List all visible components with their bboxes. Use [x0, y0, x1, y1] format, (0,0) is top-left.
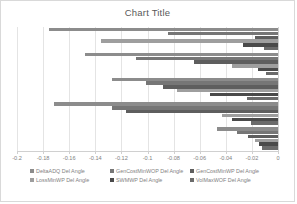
bar [266, 72, 278, 75]
x-axis-tick-label: -0.1 [143, 155, 153, 161]
legend-label: GenCostMinWOP Del Angle [116, 168, 183, 174]
x-axis-tick-mark [278, 151, 279, 154]
legend-item[interactable]: VolMaxWOF Del Angle [190, 177, 270, 183]
legend-label: VolMaxWOF Del Angle [196, 177, 251, 183]
x-axis-tick-mark [43, 151, 44, 154]
gridline [95, 27, 96, 151]
x-axis-tick-label: -0.12 [115, 155, 128, 161]
legend-item[interactable]: GenCostMinWP Del Angle [190, 168, 270, 174]
bar [262, 146, 278, 149]
x-axis-tick-label: -0.02 [246, 155, 259, 161]
legend-swatch-icon [110, 169, 114, 173]
bar [251, 121, 278, 124]
x-axis-tick-label: -0.06 [193, 155, 206, 161]
chart-legend: DeltaADQ Del AngleGenCostMinWOP Del Angl… [1, 168, 294, 183]
x-axis-tick-label: -0.08 [167, 155, 180, 161]
legend-label: SWMWP Del Angle [116, 177, 162, 183]
x-axis-tick-mark [252, 151, 253, 154]
plot-area [17, 27, 278, 151]
gridline [17, 27, 18, 151]
gridline [43, 27, 44, 151]
gridline [148, 27, 149, 151]
chart-container: Chart Title DeltaADQ Del AngleGenCostMin… [0, 0, 295, 202]
legend-label: LossMinWP Del Angle [36, 177, 89, 183]
legend-row: DeltaADQ Del AngleGenCostMinWOP Del Angl… [1, 168, 294, 174]
bar [264, 47, 278, 50]
x-axis-tick-mark [200, 151, 201, 154]
axis-zero-line [278, 27, 279, 151]
x-axis-tick-label: -0.14 [89, 155, 102, 161]
x-axis-tick-mark [121, 151, 122, 154]
legend-item[interactable]: LossMinWP Del Angle [30, 177, 110, 183]
x-axis-tick-label: -0.04 [219, 155, 232, 161]
x-axis-tick-mark [174, 151, 175, 154]
x-axis-tick-label: -0.16 [63, 155, 76, 161]
x-axis-tick-label: -0.2 [12, 155, 22, 161]
legend-swatch-icon [110, 178, 114, 182]
x-axis-tick-mark [148, 151, 149, 154]
chart-title: Chart Title [1, 7, 294, 18]
bar [247, 97, 278, 100]
legend-swatch-icon [190, 178, 194, 182]
legend-item[interactable]: SWMWP Del Angle [110, 177, 190, 183]
x-axis-tick-mark [17, 151, 18, 154]
x-axis-tick-mark [226, 151, 227, 154]
x-axis-tick-label: -0.18 [37, 155, 50, 161]
legend-swatch-icon [30, 169, 34, 173]
legend-label: DeltaADQ Del Angle [36, 168, 85, 174]
legend-swatch-icon [30, 178, 34, 182]
legend-swatch-icon [190, 169, 194, 173]
x-axis-tick-mark [95, 151, 96, 154]
x-axis-tick-mark [69, 151, 70, 154]
x-axis-tick-label: 0 [276, 155, 279, 161]
gridline [121, 27, 122, 151]
gridline [174, 27, 175, 151]
legend-row: LossMinWP Del AngleSWMWP Del AngleVolMax… [1, 177, 294, 183]
legend-label: GenCostMinWP Del Angle [196, 168, 259, 174]
gridline [69, 27, 70, 151]
legend-item[interactable]: GenCostMinWOP Del Angle [110, 168, 190, 174]
legend-item[interactable]: DeltaADQ Del Angle [30, 168, 110, 174]
